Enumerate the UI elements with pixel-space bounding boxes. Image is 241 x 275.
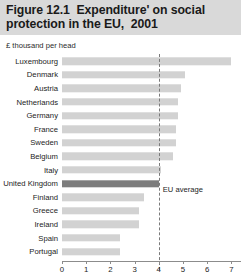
bar-row: Italy [0,163,241,177]
bar-row: Greece [0,204,241,218]
category-label: Spain [0,234,62,243]
category-label: Belgium [0,152,62,161]
x-axis-tick [62,261,63,264]
bar-row: Austria [0,82,241,96]
x-axis-tick [110,261,111,264]
bar-track [62,109,241,123]
category-label: United Kingdom [0,179,62,188]
bar-track [62,122,241,136]
category-label: Austria [0,84,62,93]
x-axis-tick [86,261,87,264]
chart-bars-and-axis: LuxembourgDenmarkAustriaNetherlandsGerma… [0,54,241,275]
bar-row: Portugal [0,245,241,259]
eu-average-line [159,54,160,270]
category-label: Luxembourg [0,57,62,66]
x-axis-tick-label: 2 [108,265,112,274]
category-label: Sweden [0,138,62,147]
x-axis-tick-label: 1 [84,265,88,274]
category-label: Germany [0,111,62,120]
category-label: Ireland [0,220,62,229]
bar-row: Luxembourg [0,54,241,68]
bar [62,166,161,173]
bar [62,112,178,119]
figure-title-band: Figure 12.1 Expenditure' on social prote… [0,0,241,35]
chart-plot-area: LuxembourgDenmarkAustriaNetherlandsGerma… [0,54,241,275]
x-axis-tick [183,261,184,264]
x-axis-tick-label: 0 [60,265,64,274]
x-axis-tick [207,261,208,264]
category-label: Italy [0,166,62,175]
bar [62,194,144,201]
bar [62,221,139,228]
x-axis-tick-label: 5 [181,265,185,274]
bar-track [62,163,241,177]
category-label: Greece [0,206,62,215]
bar-row: Finland [0,190,241,204]
bar-track [62,245,241,259]
bar [62,85,181,92]
bar-highlighted [62,180,159,187]
bar-row: Ireland [0,218,241,232]
bar-row: France [0,122,241,136]
bar [62,71,185,78]
bar-row: Netherlands [0,95,241,109]
bar-track [62,82,241,96]
category-label: Finland [0,193,62,202]
bar-track [62,150,241,164]
figure-subtitle: £ thousand per head [0,35,241,54]
figure-container: Figure 12.1 Expenditure' on social prote… [0,0,241,275]
bar [62,207,139,214]
bar-track [62,68,241,82]
bar [62,234,120,241]
bar-track [62,177,241,191]
bar-track [62,190,241,204]
x-axis-tick-label: 6 [205,265,209,274]
x-axis-tick-label: 4 [157,265,161,274]
figure-title-line-2: protection in the EU, 2001 [6,17,235,31]
x-axis-tick-label: 3 [132,265,136,274]
x-axis-tick [135,261,136,264]
category-label: France [0,125,62,134]
category-label: Portugal [0,247,62,256]
bar-track [62,218,241,232]
bar-row: Belgium [0,150,241,164]
bar-track [62,204,241,218]
x-axis-line: 01234567 [62,261,241,262]
category-label: Denmark [0,70,62,79]
bar-row: Germany [0,109,241,123]
x-axis-tick [231,261,232,264]
bar [62,153,173,160]
bar-row: United Kingdom [0,177,241,191]
bar-track [62,95,241,109]
bar-track [62,54,241,68]
bar-track [62,136,241,150]
bar [62,98,178,105]
category-label: Netherlands [0,98,62,107]
eu-average-label: EU average [163,185,203,194]
bar-track [62,231,241,245]
bar [62,58,231,65]
figure-title-line-1: Figure 12.1 Expenditure' on social [6,3,235,17]
bar [62,248,120,255]
bar-row: Spain [0,231,241,245]
x-axis-tick-label: 7 [229,265,233,274]
bar-row: Sweden [0,136,241,150]
bar-row: Denmark [0,68,241,82]
x-axis-tick [159,261,160,264]
